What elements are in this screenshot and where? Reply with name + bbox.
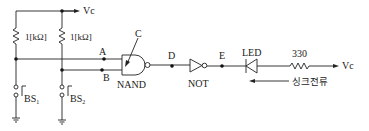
sink-current-label: 싱크전류 bbox=[292, 76, 328, 87]
switch-bs2: BS2 bbox=[58, 70, 85, 124]
not-label: NOT bbox=[188, 78, 209, 89]
ground-icon bbox=[12, 118, 20, 122]
nand-label: NAND bbox=[117, 79, 146, 90]
led: LED bbox=[242, 47, 290, 73]
vc-label-right: Vc bbox=[342, 60, 354, 71]
line-a: A bbox=[14, 46, 122, 61]
arrow-left-icon bbox=[249, 79, 255, 83]
line-b: B bbox=[60, 68, 122, 83]
supply-rail: Vc bbox=[16, 5, 95, 16]
node-d: D bbox=[150, 50, 190, 68]
resistor-r1: 1[kΩ] bbox=[13, 11, 47, 59]
arrow-right-icon bbox=[333, 64, 339, 68]
node-b-label: B bbox=[103, 72, 110, 83]
node-e-label: E bbox=[219, 50, 225, 61]
sink-current-indicator: 싱크전류 bbox=[249, 76, 328, 87]
nand-gate: NAND C bbox=[117, 28, 150, 90]
circuit-diagram: Vc 1[kΩ] 1[kΩ] A B BS1 bbox=[0, 0, 369, 131]
ground-icon bbox=[58, 120, 66, 124]
resistor-r2: 1[kΩ] bbox=[59, 11, 92, 70]
arrow-right-icon bbox=[74, 9, 80, 13]
bs2-label: BS2 bbox=[70, 93, 85, 105]
node-d-label: D bbox=[168, 50, 175, 61]
r2-label: 1[kΩ] bbox=[70, 32, 92, 42]
led-label: LED bbox=[242, 47, 261, 58]
switch-bs1: BS1 bbox=[12, 59, 39, 122]
node-c-label: C bbox=[135, 28, 142, 39]
resistor-r3: 330 Vc bbox=[290, 48, 354, 71]
node-a-label: A bbox=[99, 46, 107, 57]
r1-label: 1[kΩ] bbox=[25, 32, 47, 42]
bs1-label: BS1 bbox=[24, 93, 39, 105]
not-gate: NOT bbox=[188, 59, 209, 89]
node-e: E bbox=[207, 50, 246, 68]
vc-label-top: Vc bbox=[83, 5, 95, 16]
r3-label: 330 bbox=[292, 48, 307, 59]
